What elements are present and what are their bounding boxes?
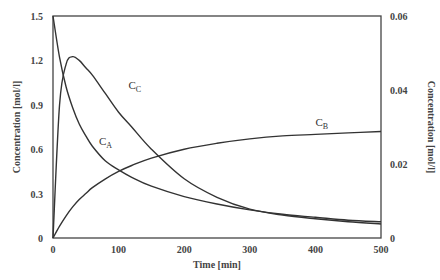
curve-labels: CACBCC [99,79,328,150]
chart: 0100200300400500 00.30.60.91.21.5 00.020… [0,0,440,280]
y-tick-label: 1.5 [31,11,44,22]
y-axis-ticks: 00.30.60.91.21.5 [31,11,44,244]
curve-c-b [53,131,381,238]
y2-axis-ticks: 00.020.040.06 [390,11,408,244]
curve-label-cc: CC [128,79,141,94]
y2-tick-label: 0 [390,233,395,244]
curve-c-c [53,57,381,238]
y2-tick-label: 0.02 [390,159,408,170]
curves [53,16,381,238]
plot-area [53,16,381,238]
curve-c-a [53,16,381,222]
x-axis-title: Time [min] [193,259,241,270]
x-tick-label: 500 [374,244,389,255]
y2-tick-label: 0.04 [390,85,408,96]
x-tick-label: 400 [308,244,323,255]
curve-label-cb: CB [315,116,328,131]
x-tick-label: 100 [111,244,126,255]
x-axis-ticks: 0100200300400500 [51,244,389,255]
curve-label-ca: CA [99,135,112,150]
y-tick-label: 0.9 [31,100,44,111]
plot-frame [53,16,381,238]
x-tick-label: 0 [51,244,56,255]
x-tick-label: 200 [177,244,192,255]
y-tick-label: 0 [38,233,43,244]
y-tick-label: 0.6 [31,144,44,155]
y-axis-title: Concentration [mol/l] [11,81,22,174]
y-tick-label: 0.3 [31,189,44,200]
y2-tick-label: 0.06 [390,11,408,22]
y-tick-label: 1.2 [31,55,44,66]
y2-axis-title: Concentration [mol/l] [426,81,437,174]
x-tick-label: 300 [242,244,257,255]
